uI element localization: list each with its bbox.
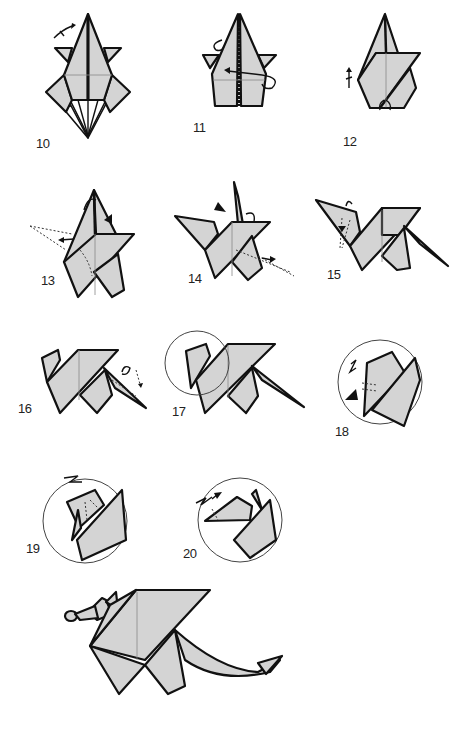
step-18-figure <box>338 340 422 426</box>
final-dragon-figure <box>65 590 282 694</box>
step-11-label: 11 <box>193 120 206 135</box>
step-19-figure <box>43 476 127 563</box>
step-14-figure <box>175 182 294 280</box>
step-16-label: 16 <box>18 401 31 416</box>
step-20-figure <box>196 478 282 562</box>
step-18-label: 18 <box>335 424 348 439</box>
step-12-figure <box>346 14 420 110</box>
step-14-label: 14 <box>188 271 201 286</box>
step-11-figure <box>203 14 276 106</box>
step-15-label: 15 <box>327 267 340 282</box>
step-16-figure <box>42 350 146 413</box>
step-19-label: 19 <box>26 541 39 556</box>
step-17-label: 17 <box>172 404 185 419</box>
step-20-label: 20 <box>183 546 196 561</box>
step-12-label: 12 <box>343 134 356 149</box>
step-15-figure <box>316 200 448 270</box>
step-10-figure <box>46 14 130 138</box>
step-13-label: 13 <box>41 273 54 288</box>
origami-diagram <box>0 0 465 742</box>
step-17-figure <box>165 331 304 413</box>
step-10-label: 10 <box>36 136 49 151</box>
